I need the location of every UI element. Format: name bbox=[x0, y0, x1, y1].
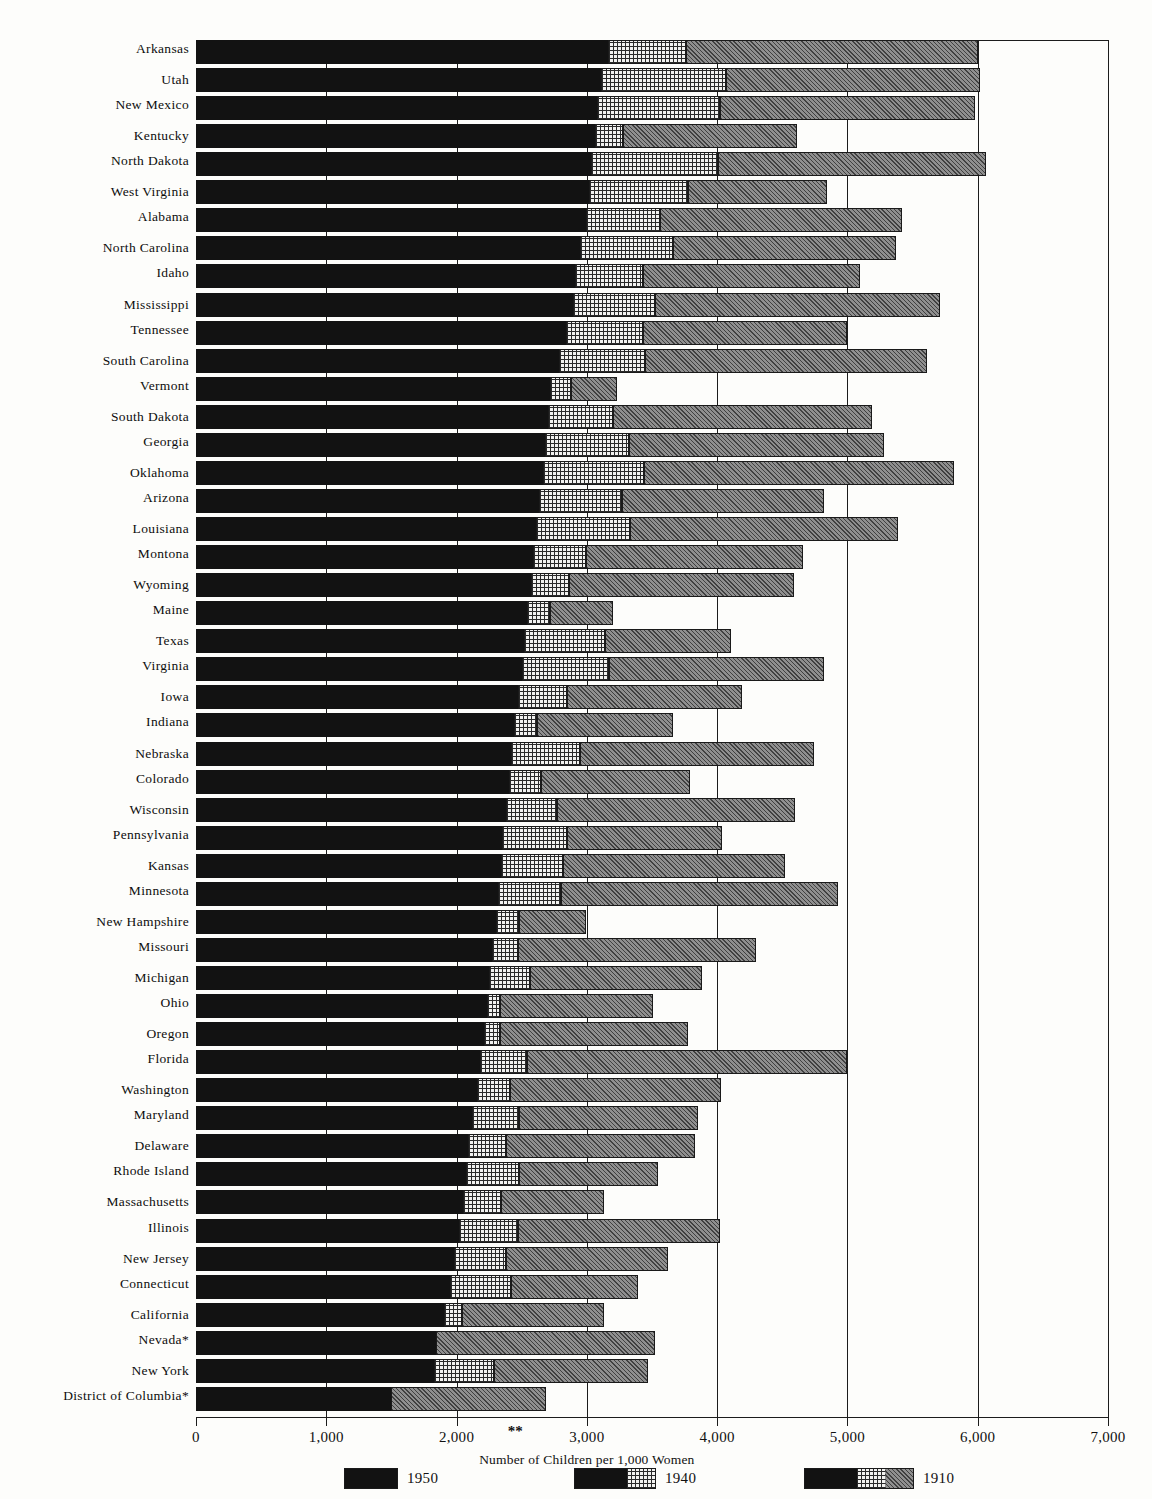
bar-segment-1940 bbox=[580, 236, 673, 260]
category-label: New Jersey bbox=[123, 1251, 189, 1267]
category-label: Arkansas bbox=[136, 41, 189, 57]
bar-segment-1950 bbox=[196, 377, 550, 401]
bar-segment-1910 bbox=[501, 1190, 604, 1214]
category-label: Nebraska bbox=[135, 746, 189, 762]
bar-segment-1950 bbox=[196, 1219, 459, 1243]
bar-segment-1910 bbox=[655, 293, 940, 317]
bar-segment-1910 bbox=[527, 1050, 848, 1074]
bar-segment-1950 bbox=[196, 770, 509, 794]
bar-segment-1950 bbox=[196, 293, 573, 317]
legend-item: 1910 bbox=[804, 1468, 954, 1489]
bar-segment-1910 bbox=[519, 910, 585, 934]
bar-segment-1910 bbox=[494, 1359, 648, 1383]
bar-segment-1940 bbox=[498, 882, 561, 906]
category-label: Minnesota bbox=[129, 883, 189, 899]
table-row bbox=[196, 517, 898, 541]
table-row bbox=[196, 657, 824, 681]
bar-segment-1940 bbox=[575, 264, 643, 288]
bar-segment-1940 bbox=[533, 545, 585, 569]
category-label: Kentucky bbox=[134, 128, 189, 144]
bar-segment-1940 bbox=[573, 293, 655, 317]
bar-segment-1910 bbox=[506, 1134, 695, 1158]
category-label: Florida bbox=[148, 1051, 189, 1067]
table-row bbox=[196, 1022, 688, 1046]
bar-segment-1950 bbox=[196, 264, 575, 288]
bar-segment-1950 bbox=[196, 433, 545, 457]
bar-segment-1950 bbox=[196, 657, 522, 681]
bar-segment-1950 bbox=[196, 1247, 454, 1271]
bar-segment-1910 bbox=[567, 685, 742, 709]
category-label: Maine bbox=[153, 602, 189, 618]
category-label: Oklahoma bbox=[130, 465, 189, 481]
bar-segment-1950 bbox=[196, 966, 489, 990]
bar-segment-1950 bbox=[196, 882, 498, 906]
bar-segment-1950 bbox=[196, 349, 559, 373]
table-row bbox=[196, 1078, 721, 1102]
x-axis-tick bbox=[457, 1417, 458, 1426]
top-border-line bbox=[978, 40, 1108, 41]
table-row bbox=[196, 68, 980, 92]
category-label: Ohio bbox=[161, 995, 189, 1011]
category-label: New York bbox=[131, 1363, 189, 1379]
bar-segment-1940 bbox=[536, 517, 630, 541]
x-axis-tick-label: 6,000 bbox=[960, 1429, 995, 1446]
category-label: Pennsylvania bbox=[113, 827, 189, 843]
category-label: Vermont bbox=[140, 378, 189, 394]
bar-segment-1940 bbox=[506, 798, 557, 822]
bar-segment-1950 bbox=[196, 1106, 472, 1130]
category-label: Idaho bbox=[157, 265, 190, 281]
category-label: California bbox=[131, 1307, 189, 1323]
bar-segment-1950 bbox=[196, 1190, 463, 1214]
table-row bbox=[196, 1050, 847, 1074]
bar-segment-1940 bbox=[501, 854, 564, 878]
bar-segment-1940 bbox=[463, 1190, 501, 1214]
category-label: Massachusetts bbox=[106, 1194, 189, 1210]
table-row bbox=[196, 798, 795, 822]
bar-segment-1940 bbox=[524, 629, 605, 653]
x-axis-tick-label: 0 bbox=[192, 1429, 200, 1446]
bar-segment-1950 bbox=[196, 742, 511, 766]
x-axis-tick-label: 2,000 bbox=[439, 1429, 474, 1446]
category-label: Texas bbox=[156, 633, 189, 649]
bar-segment-1940 bbox=[468, 1134, 506, 1158]
bar-segment-1910 bbox=[550, 601, 613, 625]
table-row bbox=[196, 854, 785, 878]
category-label: Delaware bbox=[134, 1138, 189, 1154]
legend-label: 1910 bbox=[923, 1470, 954, 1487]
bar-segment-1910 bbox=[623, 124, 796, 148]
table-row bbox=[196, 349, 927, 373]
category-label: Virginia bbox=[142, 658, 189, 674]
bar-segment-1940 bbox=[543, 461, 645, 485]
table-row bbox=[196, 938, 756, 962]
bar-segment-1940 bbox=[527, 601, 550, 625]
bar-segment-1940 bbox=[511, 742, 580, 766]
table-row bbox=[196, 1275, 638, 1299]
table-row bbox=[196, 293, 940, 317]
gridline bbox=[978, 40, 979, 1417]
table-row bbox=[196, 1359, 648, 1383]
table-row bbox=[196, 461, 954, 485]
bar-segment-1950 bbox=[196, 601, 527, 625]
table-row bbox=[196, 713, 673, 737]
x-axis-tick-label: 4,000 bbox=[700, 1429, 735, 1446]
bar-segment-1940 bbox=[514, 713, 537, 737]
category-label: Wyoming bbox=[133, 577, 189, 593]
category-label: North Carolina bbox=[103, 240, 189, 256]
legend-label: 1940 bbox=[665, 1470, 696, 1487]
table-row bbox=[196, 1190, 604, 1214]
bar-segment-1910 bbox=[720, 96, 975, 120]
bar-segment-1940 bbox=[496, 910, 519, 934]
bar-segment-1950 bbox=[196, 1134, 468, 1158]
category-label: Tennessee bbox=[131, 322, 189, 338]
bar-segment-1940 bbox=[522, 657, 609, 681]
bar-segment-1910 bbox=[518, 1219, 720, 1243]
table-row bbox=[196, 96, 975, 120]
table-row bbox=[196, 208, 902, 232]
bar-segment-1940 bbox=[566, 321, 643, 345]
bar-segment-1940 bbox=[509, 770, 542, 794]
bar-segment-1910 bbox=[557, 798, 795, 822]
bar-segment-1940 bbox=[477, 1078, 510, 1102]
bar-segment-1910 bbox=[537, 713, 672, 737]
bar-segment-1950 bbox=[196, 573, 531, 597]
legend-item: 1950 bbox=[344, 1468, 438, 1489]
